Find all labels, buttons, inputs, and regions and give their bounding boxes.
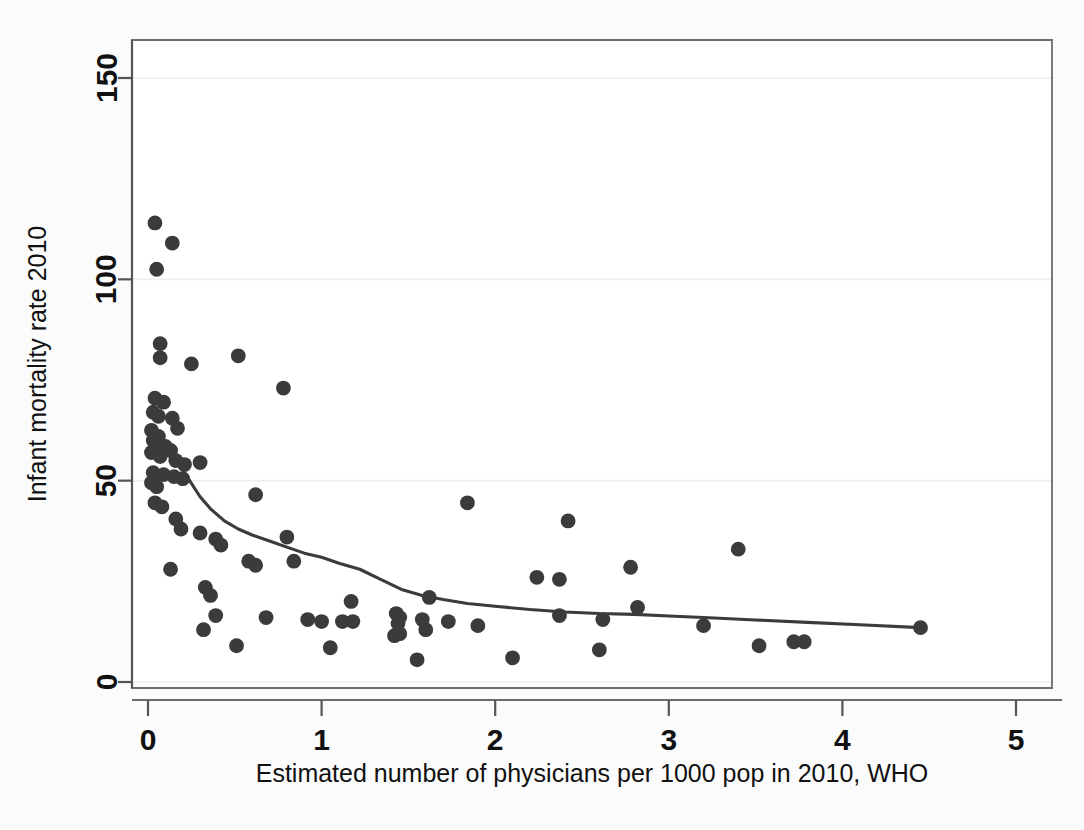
data-point [460,495,475,510]
data-point [286,554,301,569]
data-point [592,642,607,657]
data-point [731,542,746,557]
data-point [170,421,185,436]
data-point [752,638,767,653]
data-point [276,381,291,396]
y-tick-label-50: 50 [90,464,123,497]
data-point [505,650,520,665]
x-tick-label-1: 1 [313,723,330,756]
data-point [203,588,218,603]
y-tick-label-0: 0 [90,674,123,691]
data-point [153,449,168,464]
y-axis-title: Infant mortality rate 2010 [23,226,51,503]
data-point [149,479,164,494]
data-point [418,622,433,637]
x-tick-label-2: 2 [487,723,504,756]
data-point [279,530,294,545]
data-point [561,514,576,529]
data-point [696,618,711,633]
data-point [229,638,244,653]
data-point [248,558,263,573]
data-point [441,614,456,629]
data-point [214,538,229,553]
data-point [153,336,168,351]
data-point [529,570,544,585]
x-tick-label-3: 3 [660,723,677,756]
data-point [148,216,163,231]
data-point [196,622,211,637]
data-point [387,628,402,643]
data-point [193,455,208,470]
data-point [165,236,180,251]
y-tick-label-150: 150 [90,53,123,103]
data-point [630,600,645,615]
data-point [323,640,338,655]
data-point [797,634,812,649]
plot-svg: 050100150 012345 Estimated number of phy… [0,0,1084,830]
data-point [184,356,199,371]
data-point [623,560,638,575]
data-point [344,594,359,609]
x-axis-title: Estimated number of physicians per 1000 … [256,759,929,787]
x-tick-label-4: 4 [834,723,851,756]
data-point [231,348,246,363]
data-point [153,350,168,365]
data-point [163,562,178,577]
data-point [470,618,485,633]
plot-area-background [132,40,1052,688]
y-tick-label-100: 100 [90,254,123,304]
x-tick-label-0: 0 [140,723,157,756]
data-point [174,522,189,537]
scatter-plot-figure: 050100150 012345 Estimated number of phy… [0,0,1084,830]
data-point [193,526,208,541]
data-point [410,652,425,667]
data-point [151,409,166,424]
data-point [552,572,567,587]
data-point [248,487,263,502]
data-point [345,614,360,629]
data-point [314,614,329,629]
data-point [259,610,274,625]
data-point [154,499,169,514]
data-point [149,262,164,277]
data-point [300,612,315,627]
x-tick-label-5: 5 [1008,723,1025,756]
data-point [208,608,223,623]
